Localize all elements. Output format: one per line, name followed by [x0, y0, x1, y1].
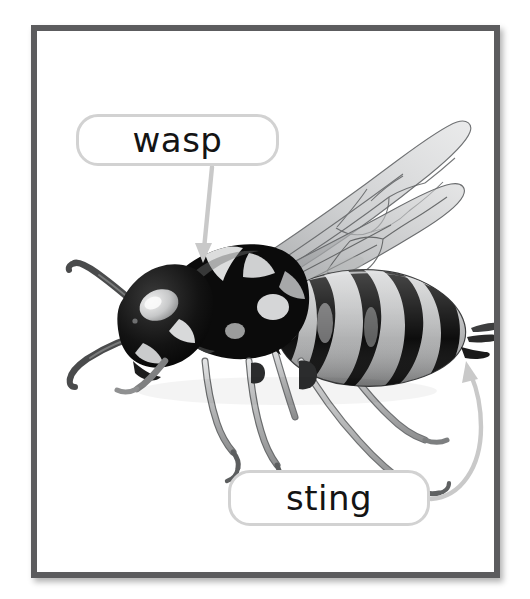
callout-box-wasp[interactable]: wasp [76, 114, 279, 166]
wasp-arrow-icon [195, 167, 212, 263]
callout-label-sting: sting [286, 481, 372, 515]
wasp-head [117, 264, 213, 380]
picture-frame: wasp sting [31, 25, 500, 578]
wasp-antennae [69, 263, 155, 387]
callout-box-sting[interactable]: sting [228, 470, 430, 526]
wasp-legs-rear [273, 345, 447, 442]
wasp-thorax [165, 244, 309, 359]
card-canvas: wasp sting [37, 31, 494, 572]
sting-arrow-icon [431, 361, 481, 499]
wasp-stinger [461, 323, 494, 359]
wasp-abdomen [243, 261, 477, 391]
callout-label-wasp: wasp [133, 123, 223, 157]
